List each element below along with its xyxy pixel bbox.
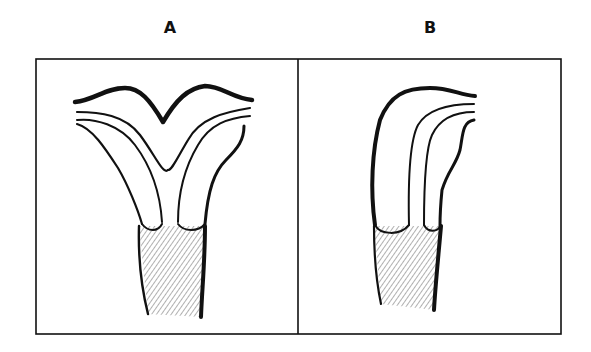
figure-canvas (0, 0, 591, 352)
frame (36, 59, 561, 334)
panel-b-drawing (372, 88, 475, 310)
panel-a-drawing (75, 86, 252, 317)
